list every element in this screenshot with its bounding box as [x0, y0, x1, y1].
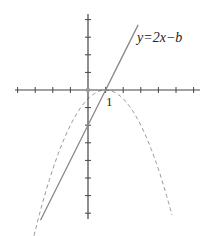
y-axis: [85, 14, 91, 219]
origin-marker: [86, 88, 90, 92]
line-y-2x-b: [40, 25, 138, 220]
line-equation-label: y=2x−b: [135, 30, 182, 45]
chart-canvas: y=2x−b 1: [0, 0, 210, 236]
x-tick-label-1: 1: [106, 94, 113, 109]
x-axis: [15, 87, 200, 93]
parabola-curve: [34, 90, 172, 236]
